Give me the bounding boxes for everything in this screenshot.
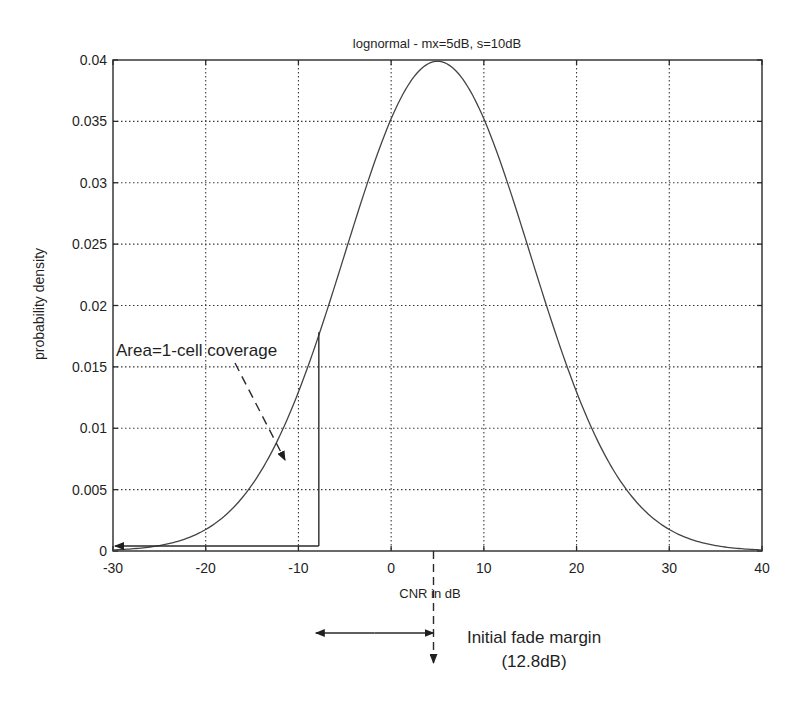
y-tick-label: 0.04	[80, 52, 107, 68]
y-tick-label: 0	[99, 543, 107, 559]
x-tick-label: 10	[476, 560, 492, 576]
x-tick-label: -20	[196, 560, 216, 576]
y-tick-label: 0.035	[72, 113, 107, 129]
x-axis-ticks: -30-20-10010203040	[103, 60, 770, 576]
y-tick-label: 0.025	[72, 236, 107, 252]
y-tick-label: 0.015	[72, 359, 107, 375]
x-tick-label: -30	[103, 560, 123, 576]
fade-margin-label: Initial fade margin	[467, 628, 601, 647]
lognormal-pdf-chart: lognormal - mx=5dB, s=10dB -30-20-100102…	[0, 0, 791, 704]
y-tick-label: 0.005	[72, 482, 107, 498]
chart-title: lognormal - mx=5dB, s=10dB	[353, 36, 521, 51]
x-tick-label: 20	[569, 560, 585, 576]
y-axis-label: probability density	[31, 248, 47, 360]
x-tick-label: 30	[661, 560, 677, 576]
area-annotation: Area=1-cell coverage	[116, 341, 277, 360]
area-pointer-arrow	[235, 363, 285, 460]
y-tick-label: 0.01	[80, 420, 107, 436]
grid-lines	[113, 60, 762, 551]
fade-margin-value: (12.8dB)	[501, 652, 566, 671]
x-tick-label: -10	[288, 560, 308, 576]
y-tick-label: 0.03	[80, 175, 107, 191]
x-axis-label: CNR in dB	[399, 586, 460, 601]
x-tick-label: 0	[387, 560, 395, 576]
x-tick-label: 40	[754, 560, 770, 576]
y-tick-label: 0.02	[80, 298, 107, 314]
